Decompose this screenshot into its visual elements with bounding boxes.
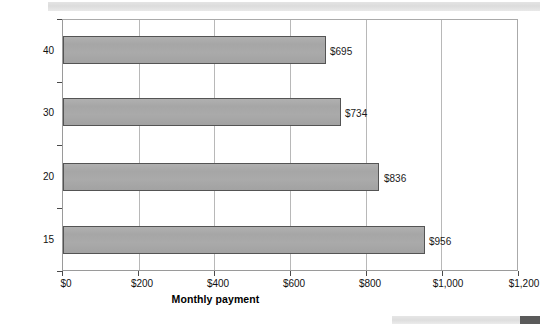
ytick-mark-top — [57, 19, 62, 20]
scan-artifact-bottom-band — [392, 316, 520, 324]
xticklabel-600: $600 — [283, 278, 305, 289]
xticklabel-0: $0 — [60, 278, 71, 289]
yticklabel-15: 15 — [38, 234, 54, 245]
bar-label-40: $695 — [330, 47, 352, 57]
gridline-1000 — [441, 20, 442, 270]
xticklabel-800: $800 — [359, 278, 381, 289]
bar-30 — [63, 98, 341, 126]
xtick-mark-1000 — [442, 271, 443, 276]
scan-artifact-top-band — [48, 2, 540, 11]
bar-15 — [63, 226, 425, 254]
xtick-mark-1200 — [518, 271, 519, 276]
xtick-mark-800 — [366, 271, 367, 276]
bar-40 — [63, 36, 326, 64]
xtick-mark-0 — [62, 271, 63, 276]
plot-area — [62, 19, 518, 271]
x-axis-label-text: Monthly payment — [172, 293, 260, 305]
bar-20 — [63, 163, 379, 191]
yticklabel-40: 40 — [38, 45, 54, 56]
xticklabel-1000: $1,000 — [433, 278, 464, 289]
yticklabel-30: 30 — [38, 107, 54, 118]
bar-label-15: $956 — [429, 237, 451, 247]
xticklabel-400: $400 — [207, 278, 229, 289]
xticklabel-200: $200 — [131, 278, 153, 289]
yticklabel-20: 20 — [38, 171, 54, 182]
xticklabel-1200: $1,200 — [509, 278, 540, 289]
ytick-mark-20-15 — [57, 208, 62, 209]
ytick-mark-30-20 — [57, 145, 62, 146]
x-axis-label: Monthly payment — [0, 293, 549, 305]
bar-label-30: $734 — [345, 109, 367, 119]
xtick-mark-400 — [214, 271, 215, 276]
ytick-mark-40-30 — [57, 82, 62, 83]
ytick-mark-bottom — [57, 271, 62, 272]
scan-artifact-bottom-block — [520, 316, 540, 324]
bar-chart-figure: $695 $734 $836 $956 $0 $200 $400 $600 $8… — [0, 0, 549, 327]
xtick-mark-600 — [290, 271, 291, 276]
xtick-mark-200 — [138, 271, 139, 276]
bar-label-20: $836 — [384, 174, 406, 184]
